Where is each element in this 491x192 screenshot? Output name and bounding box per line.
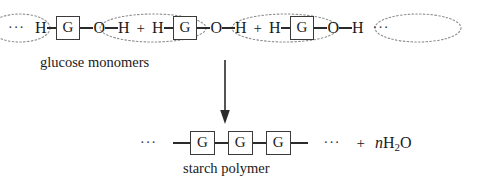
atom-h-1b: H (235, 20, 247, 36)
product-row: ··· G G G ··· + nH2O (140, 130, 412, 156)
bond-h-g-2 (281, 27, 290, 28)
polymer-unit-1: G (228, 131, 253, 155)
bond-o-h-2 (339, 27, 352, 28)
bond-g-o-1 (197, 27, 210, 28)
water-formula: nH2O (375, 135, 412, 151)
reaction-arrow (220, 60, 230, 124)
product-plus: + (357, 136, 365, 151)
reactant-row: ··· H G O H + H G O H + H G O H ··· (0, 14, 491, 42)
bond-o-h-1 (222, 27, 235, 28)
product-trailing-ellipsis: ··· (324, 136, 341, 150)
bond-chain-0-1 (215, 142, 228, 143)
bond-chain-end (291, 142, 308, 143)
reactant-plus-1: + (254, 21, 262, 36)
bond-h-g-0 (47, 27, 56, 28)
bond-g-o-0 (80, 27, 93, 28)
reactant-leading-ellipsis: ··· (8, 21, 25, 35)
water-coefficient: n (375, 134, 383, 151)
water-element-h: H (383, 134, 395, 151)
atom-h-1a: H (152, 20, 164, 36)
bond-chain-1-2 (253, 142, 266, 143)
atom-o-2: O (327, 20, 339, 36)
water-subscript: 2 (395, 141, 401, 153)
starch-polymer-label: starch polymer (183, 160, 270, 177)
atom-h-0a: H (35, 20, 47, 36)
glucose-unit-1: G (173, 16, 198, 40)
glucose-monomers-label: glucose monomers (40, 54, 149, 71)
reactant-trailing-ellipsis: ··· (373, 21, 390, 35)
atom-o-1: O (210, 20, 222, 36)
bond-chain-start (173, 142, 190, 143)
product-leading-ellipsis: ··· (140, 136, 157, 150)
atom-h-2b: H (352, 20, 364, 36)
atom-h-0b: H (118, 20, 130, 36)
bond-o-h-0 (105, 27, 118, 28)
glucose-unit-2: G (290, 16, 315, 40)
water-element-o: O (400, 134, 412, 151)
polymer-unit-0: G (190, 131, 215, 155)
glucose-unit-0: G (56, 16, 81, 40)
bond-g-o-2 (314, 27, 327, 28)
reactant-plus-0: + (137, 21, 145, 36)
reaction-diagram: ··· H G O H + H G O H + H G O H ··· gluc… (0, 0, 491, 192)
atom-o-0: O (93, 20, 105, 36)
atom-h-2a: H (269, 20, 281, 36)
polymer-unit-2: G (266, 131, 291, 155)
bond-h-g-1 (164, 27, 173, 28)
